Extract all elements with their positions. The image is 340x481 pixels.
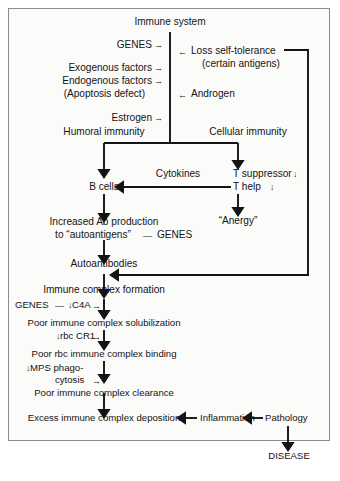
node-increased-ab-line1: Increased Ab production xyxy=(50,217,159,227)
node-pathology: Pathology xyxy=(265,413,308,423)
dash-genes-to-c4a: — xyxy=(55,301,64,311)
figure-container: Immune system GENES → Exogenous factors … xyxy=(0,0,340,481)
node-exogenous-factors: Exogenous factors xyxy=(68,63,152,73)
node-b-cells: B cells xyxy=(89,182,119,192)
node-increased-ab-line2: to “autoantigens” xyxy=(55,230,131,240)
node-anergy: “Anergy” xyxy=(219,216,258,226)
node-cytokines: Cytokines xyxy=(156,169,200,179)
node-androgen: Androgen xyxy=(191,89,235,99)
node-mps-phago: MPS phago- xyxy=(30,363,83,373)
node-immune-system: Immune system xyxy=(134,17,205,27)
node-poor-solubilization: Poor immune complex solubilization xyxy=(27,318,180,328)
node-estrogen: Estrogen xyxy=(112,113,152,123)
node-t-help: T help xyxy=(233,182,261,192)
node-rbc-cr1: rbc CR1 xyxy=(60,331,95,341)
node-loss-self-tolerance: Loss self-tolerance xyxy=(191,46,276,56)
t-help-change-indicator: ↓ xyxy=(270,183,274,192)
arrow-rbc-cr1-to-trunk: → xyxy=(92,332,101,342)
node-genes-top: GENES xyxy=(117,40,152,50)
node-certain-antigens: (certain antigens) xyxy=(202,59,280,69)
arrow-c4a-to-trunk: → xyxy=(92,301,101,311)
t-suppressor-change-indicator: ↓ xyxy=(293,170,297,179)
node-cytosis: cytosis xyxy=(55,375,84,385)
dash-to-genes-autoantigens: — xyxy=(143,231,152,241)
arrow-estrogen-right: → xyxy=(154,113,163,123)
node-autoantibodies: Autoantibodies xyxy=(71,259,138,269)
node-poor-clearance: Poor immune complex clearance xyxy=(34,388,174,398)
arrow-loss-self-tolerance-left: ← xyxy=(178,47,187,57)
node-inflammation: Inflammation xyxy=(200,413,255,423)
node-t-suppressor: T suppressor xyxy=(233,169,292,179)
arrow-endogenous-right: → xyxy=(154,76,163,86)
node-cellular-immunity: Cellular immunity xyxy=(209,127,286,137)
node-excess-deposition: Excess immune complex deposition xyxy=(28,413,181,423)
node-apoptosis-defect: (Apoptosis defect) xyxy=(64,89,145,99)
node-endogenous-factors: Endogenous factors xyxy=(62,76,152,86)
arrow-genes-right: → xyxy=(154,40,163,50)
node-poor-rbc-binding: Poor rbc immune complex binding xyxy=(31,349,176,359)
node-immune-complex-formation: Immune complex formation xyxy=(43,285,165,295)
connector-layer xyxy=(0,0,340,481)
node-c4a: C4A xyxy=(72,300,91,310)
node-disease: DISEASE xyxy=(268,451,310,461)
node-humoral-immunity: Humoral immunity xyxy=(63,127,144,137)
node-genes-autoantigens: GENES xyxy=(157,230,192,240)
arrow-exogenous-right: → xyxy=(154,63,163,73)
arrow-cytosis-to-trunk: → xyxy=(92,376,101,386)
node-genes-c4a: GENES xyxy=(15,300,49,310)
arrow-androgen-left: ← xyxy=(178,90,187,100)
